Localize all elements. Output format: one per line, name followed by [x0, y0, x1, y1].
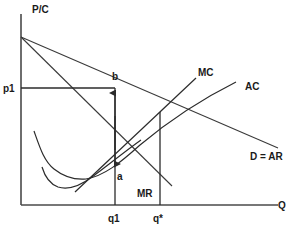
- y-axis-label: P/C: [32, 4, 49, 15]
- point-label-a: a: [117, 171, 123, 182]
- average-variable-cost-curve: [42, 140, 141, 188]
- demand-label: D = AR: [250, 151, 283, 162]
- diagram-canvas: P/C Q p1 q1 q* b a MC AC D = AR MR: [0, 0, 293, 230]
- marginal-revenue-label: MR: [137, 188, 153, 199]
- demand-curve: [21, 37, 278, 148]
- price-tick-label-p1: p1: [3, 83, 15, 94]
- average-cost-label: AC: [245, 81, 259, 92]
- axis-group: [21, 14, 278, 205]
- marginal-revenue-curve: [21, 37, 172, 186]
- economics-diagram: P/C Q p1 q1 q* b a MC AC D = AR MR: [0, 0, 293, 230]
- x-axis-label: Q: [278, 200, 286, 211]
- quantity-tick-label-q1: q1: [108, 213, 120, 224]
- marginal-cost-curve: [75, 78, 196, 192]
- quantity-tick-label-qstar: q*: [153, 213, 163, 224]
- point-label-b: b: [112, 71, 118, 82]
- average-cost-curve: [34, 82, 236, 179]
- marginal-cost-label: MC: [198, 67, 214, 78]
